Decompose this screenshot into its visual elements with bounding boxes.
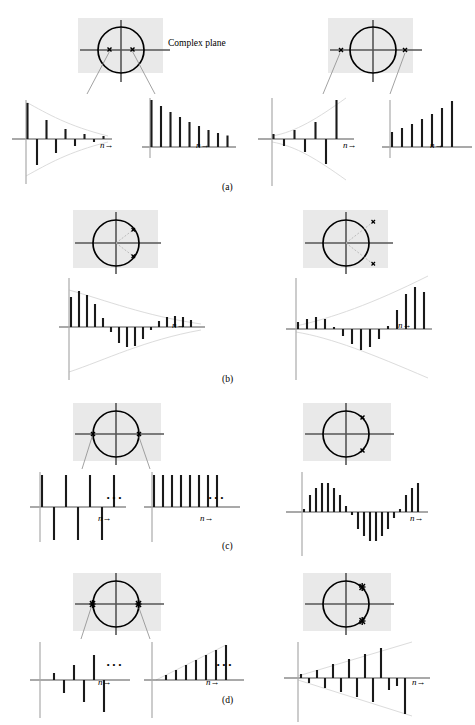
panel-letter-c: (c) [222, 541, 233, 551]
envelope-upper [298, 642, 412, 676]
envelope-lower [298, 680, 412, 716]
ellipsis-d-left-alt: ··· [106, 657, 124, 673]
axis-arrow: → [211, 677, 220, 687]
stem-plot-c-left-positive [140, 470, 245, 545]
envelope-lower [26, 142, 108, 176]
figure-row-d: ··· n→ ··· [0, 565, 462, 718]
stem-plot-c-left-alternating [26, 470, 131, 545]
leader-line-left [87, 52, 110, 95]
axis-arrow: → [105, 140, 114, 150]
axis-arrow: → [177, 320, 186, 330]
leader-line-right [139, 608, 150, 639]
axis-arrow: → [417, 677, 426, 687]
axis-label-a-left-pos: n→ [196, 140, 210, 150]
pole-plot-d-left [58, 567, 188, 645]
pole-plot-d-right [288, 567, 418, 645]
axis-label-b-left: n→ [172, 320, 186, 330]
radial-lower [116, 243, 133, 256]
axis-arrow: → [415, 513, 424, 523]
axis-arrow: → [348, 140, 357, 150]
pole-plot-a-left [60, 10, 190, 100]
axis-label-a-left-alt: n→ [100, 140, 114, 150]
ellipsis-c-left-alt: ··· [106, 490, 124, 506]
ellipsis-c-left-pos: ··· [208, 490, 226, 506]
axis-label-d-left-pos: n→ [206, 677, 220, 687]
stem-plot-a-left-positive [140, 92, 240, 162]
axis-label-c-left-alt: n→ [98, 513, 112, 523]
envelope-upper [26, 102, 108, 136]
pole-plot-b-right [288, 204, 418, 282]
pole-marker-upper [372, 220, 376, 224]
axis-arrow: → [103, 513, 112, 523]
pole-plot-a-right [310, 10, 440, 100]
pole-plot-c-right [288, 397, 418, 475]
complex-plane-label: Complex plane [168, 38, 226, 48]
stems [152, 100, 228, 147]
double-pole-marker-negative [90, 600, 96, 608]
stems [274, 100, 337, 164]
stems [42, 655, 104, 712]
panel-letter-d: (d) [222, 695, 233, 705]
envelope-upper [69, 290, 201, 324]
double-pole-marker-positive [136, 600, 142, 608]
stem-plot-b-left [55, 274, 210, 384]
ellipsis-d-left-pos: ··· [216, 657, 234, 673]
panel-letter-b: (b) [222, 374, 233, 384]
stem-plot-a-right-positive [380, 92, 475, 162]
axis-label-c-left-pos: n→ [200, 513, 214, 523]
stem-plot-b-right [282, 274, 437, 384]
axis-arrow: → [403, 320, 412, 330]
pole-plot-b-left [58, 204, 183, 282]
axis-arrow: → [103, 677, 112, 687]
leader-line-left [323, 53, 340, 94]
axis-label-b-right: n→ [398, 320, 412, 330]
stem-plot-d-left-alternating [26, 640, 136, 720]
double-pole-marker-lower [359, 617, 366, 625]
axis-label-d-left-alt: n→ [98, 677, 112, 687]
leader-line-left [82, 437, 92, 469]
radial-upper [116, 230, 133, 243]
axis-arrow: → [205, 513, 214, 523]
envelope-upper [272, 98, 346, 136]
pole-plot-c-left [58, 397, 188, 475]
figure-row-c: ··· n→ ··· n→ [0, 395, 462, 565]
leader-line-right [139, 437, 150, 469]
axis-arrow: → [201, 140, 210, 150]
figure-row-b: n→ [0, 200, 462, 395]
panel-letter-a: (a) [222, 182, 233, 192]
stem-plot-d-left-positive [140, 640, 250, 720]
stems [298, 287, 424, 350]
envelope-lower [272, 142, 346, 180]
leader-line-right [133, 52, 156, 95]
double-pole-marker-upper [359, 583, 366, 591]
stems [301, 648, 405, 714]
axis-label-d-right: n→ [412, 677, 426, 687]
axis-label-c-right: n→ [410, 513, 424, 523]
leader-line-right [390, 53, 405, 94]
axis-label-a-right-pos: n→ [430, 140, 444, 150]
figure-row-a: Complex plane n→ [0, 0, 462, 200]
leader-line-left [81, 608, 91, 639]
axis-arrow: → [435, 140, 444, 150]
axis-label-a-right-alt: n→ [343, 140, 357, 150]
